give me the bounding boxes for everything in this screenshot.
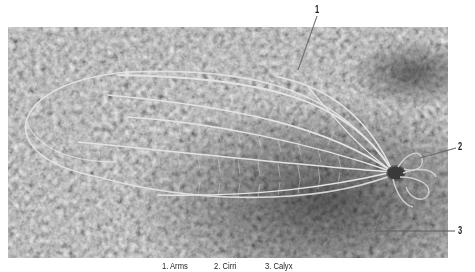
legend-item-cirri: 2. Cirri [214,260,236,272]
callout-number-2: 2 [458,142,462,152]
feather-star-photo [8,27,448,258]
legend-item-calyx: 3. Calyx [265,260,292,272]
callout-number-1: 1 [315,5,319,15]
figure-legend: 1. Arms 2. Cirri 3. Calyx [0,260,475,272]
callout-number-3: 3 [458,226,462,236]
legend-item-arms: 1. Arms [162,260,188,272]
